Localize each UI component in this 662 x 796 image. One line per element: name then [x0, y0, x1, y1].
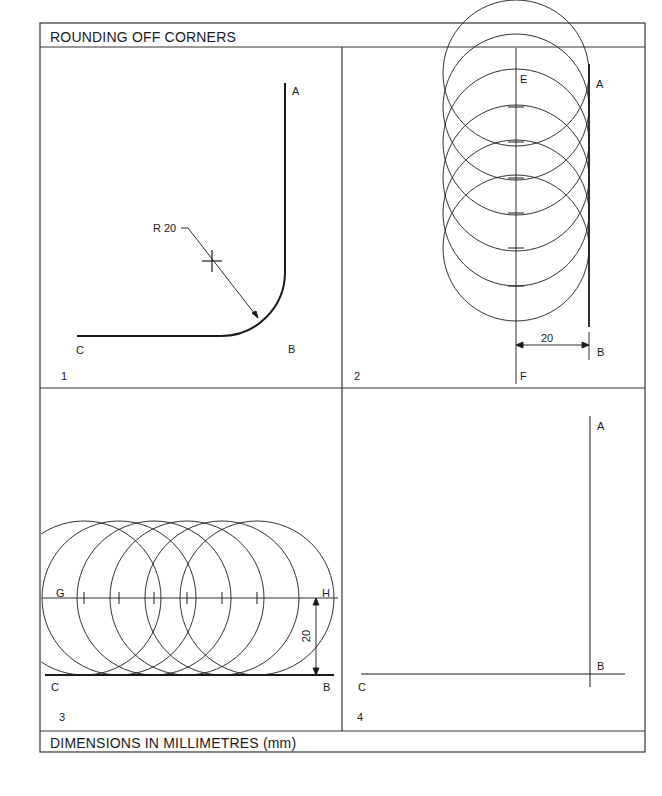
panel-4-number: 4	[357, 711, 363, 723]
frame	[40, 23, 645, 752]
panel-1-label-c: C	[76, 344, 84, 356]
panel-3-label-c: C	[51, 681, 59, 693]
panel-3-dimension: 20	[300, 630, 312, 642]
panel-3-label-b: B	[323, 681, 330, 693]
page-title: ROUNDING OFF CORNERS	[50, 29, 236, 45]
panel-2-label-a: A	[596, 78, 603, 90]
panel-4-label-c: C	[358, 681, 366, 693]
drawing-sheet: ROUNDING OFF CORNERS DIMENSIONS IN MILLI…	[0, 0, 662, 796]
panel-4-figure	[361, 416, 625, 687]
panel-1-number: 1	[61, 370, 67, 382]
panel-2-number: 2	[354, 370, 360, 382]
panel-2-label-e: E	[520, 73, 527, 85]
units-note: DIMENSIONS IN MILLIMETRES (mm)	[50, 735, 296, 751]
radius-label: R 20	[153, 222, 176, 234]
panel-4-label-a: A	[597, 420, 604, 432]
panel-1-label-a: A	[292, 85, 299, 97]
panel-2-figure	[443, 0, 589, 384]
panel-2-label-b: B	[597, 346, 604, 358]
panel-3-number: 3	[59, 711, 65, 723]
panel-3-label-g: G	[56, 587, 65, 599]
panel-4-label-b: B	[597, 660, 604, 672]
panel-1-figure	[77, 83, 285, 336]
panel-3-label-h: H	[322, 587, 330, 599]
drawing-canvas	[0, 0, 662, 796]
panel-2-label-f: F	[520, 370, 527, 382]
panel-2-dimension: 20	[541, 332, 553, 344]
panel-1-label-b: B	[288, 343, 295, 355]
